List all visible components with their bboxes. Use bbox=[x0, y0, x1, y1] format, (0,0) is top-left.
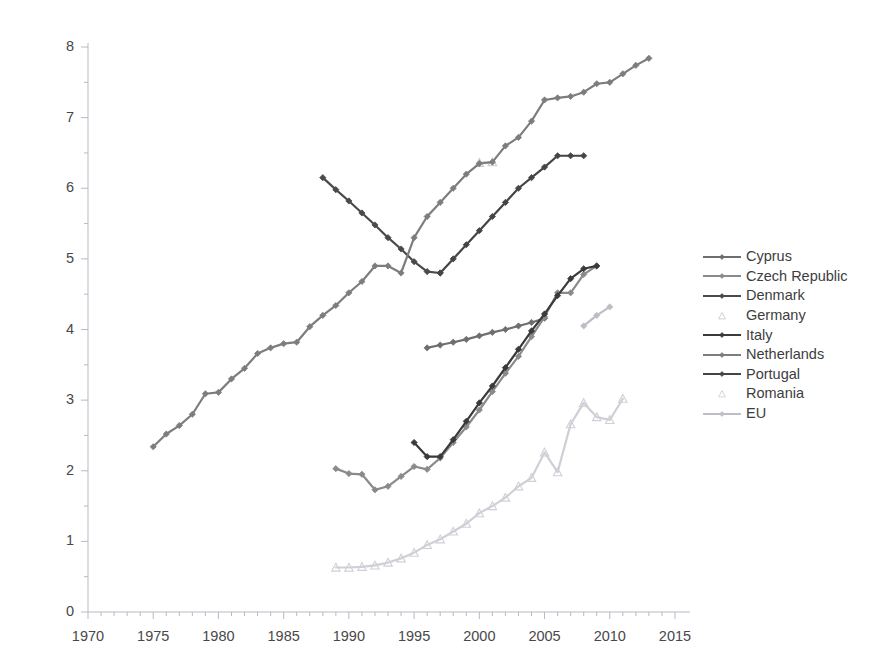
legend-item-label: Czech Republic bbox=[746, 269, 848, 284]
data-point-marker bbox=[515, 323, 521, 329]
x-tick-label-2005: 2005 bbox=[515, 628, 575, 644]
legend-swatch-icon bbox=[703, 367, 741, 381]
legend-item-italy[interactable]: Italy bbox=[703, 325, 883, 345]
data-point-marker bbox=[489, 329, 495, 335]
y-tick-label-6: 6 bbox=[40, 179, 74, 195]
data-series-layer bbox=[150, 55, 652, 571]
data-point-marker bbox=[720, 274, 725, 279]
series-line bbox=[440, 156, 583, 273]
x-tick-label-1980: 1980 bbox=[188, 628, 248, 644]
legend-swatch-icon bbox=[703, 387, 741, 401]
data-point-marker bbox=[281, 341, 287, 347]
y-tick-label-2: 2 bbox=[40, 462, 74, 478]
legend-swatch-icon bbox=[703, 348, 741, 362]
series-denmark bbox=[320, 175, 444, 277]
x-tick-label-2015: 2015 bbox=[645, 628, 705, 644]
legend-diamond-icon bbox=[718, 272, 726, 280]
y-tick-label-4: 4 bbox=[40, 321, 74, 337]
legend-item-germany[interactable]: Germany bbox=[703, 306, 883, 326]
data-point-marker bbox=[568, 93, 574, 99]
data-point-marker bbox=[555, 95, 561, 101]
y-tick-label-0: 0 bbox=[40, 603, 74, 619]
legend-swatch-icon bbox=[703, 328, 741, 342]
data-point-marker bbox=[333, 466, 339, 472]
data-point-marker bbox=[437, 342, 443, 348]
legend-swatch-icon bbox=[703, 309, 741, 323]
series-czech-republic bbox=[333, 263, 600, 493]
y-axis-ticks bbox=[81, 47, 88, 612]
legend-swatch-icon bbox=[703, 289, 741, 303]
legend-item-label: EU bbox=[746, 406, 766, 421]
legend-item-cyprus[interactable]: Cyprus bbox=[703, 247, 883, 267]
legend-diamond-icon bbox=[718, 351, 726, 359]
data-point-marker bbox=[424, 345, 430, 351]
legend-item-netherlands[interactable]: Netherlands bbox=[703, 345, 883, 365]
data-point-marker bbox=[568, 153, 574, 159]
data-point-marker bbox=[720, 333, 725, 338]
series-portugal bbox=[437, 153, 587, 276]
data-point-marker bbox=[528, 319, 534, 325]
legend-diamond-icon bbox=[718, 292, 726, 300]
legend-item-label: Germany bbox=[746, 308, 806, 323]
y-tick-label-3: 3 bbox=[40, 391, 74, 407]
legend-item-romania[interactable]: Romania bbox=[703, 384, 883, 404]
x-tick-label-1995: 1995 bbox=[384, 628, 444, 644]
y-tick-label-7: 7 bbox=[40, 109, 74, 125]
data-point-marker bbox=[268, 345, 274, 351]
x-tick-label-1975: 1975 bbox=[123, 628, 183, 644]
legend-item-czech-republic[interactable]: Czech Republic bbox=[703, 267, 883, 287]
x-axis-ticks bbox=[88, 612, 675, 619]
legend-item-label: Netherlands bbox=[746, 347, 824, 362]
series-line bbox=[336, 266, 597, 490]
legend-triangle-icon bbox=[718, 390, 726, 398]
data-point-marker bbox=[720, 294, 725, 299]
legend-item-denmark[interactable]: Denmark bbox=[703, 286, 883, 306]
series-romania bbox=[332, 395, 627, 572]
legend-triangle-icon bbox=[718, 312, 726, 320]
x-tick-label-1985: 1985 bbox=[254, 628, 314, 644]
data-point-marker bbox=[720, 372, 725, 377]
legend-item-label: Cyprus bbox=[746, 249, 792, 264]
y-tick-label-8: 8 bbox=[40, 38, 74, 54]
chart-legend: CyprusCzech RepublicDenmarkGermanyItalyN… bbox=[703, 247, 883, 423]
legend-item-portugal[interactable]: Portugal bbox=[703, 365, 883, 385]
x-tick-label-2010: 2010 bbox=[580, 628, 640, 644]
x-tick-label-1990: 1990 bbox=[319, 628, 379, 644]
legend-item-label: Romania bbox=[746, 386, 804, 401]
data-point-marker bbox=[502, 326, 508, 332]
series-eu bbox=[581, 304, 613, 329]
legend-item-eu[interactable]: EU bbox=[703, 404, 883, 424]
data-point-marker bbox=[719, 391, 726, 397]
data-point-marker bbox=[346, 470, 352, 476]
legend-item-label: Italy bbox=[746, 328, 773, 343]
data-point-marker bbox=[450, 339, 456, 345]
data-point-marker bbox=[581, 153, 587, 159]
data-point-marker bbox=[719, 312, 726, 318]
y-tick-label-5: 5 bbox=[40, 250, 74, 266]
legend-swatch-icon bbox=[703, 269, 741, 283]
y-tick-label-1: 1 bbox=[40, 532, 74, 548]
legend-diamond-icon bbox=[718, 410, 726, 418]
data-point-marker bbox=[720, 352, 725, 357]
legend-swatch-icon bbox=[703, 250, 741, 264]
chart-container: 876543210 197019751980198519901995200020… bbox=[0, 0, 893, 672]
data-point-marker bbox=[463, 336, 469, 342]
data-point-marker bbox=[720, 254, 725, 259]
data-point-marker bbox=[720, 411, 725, 416]
x-tick-label-2000: 2000 bbox=[449, 628, 509, 644]
x-tick-label-1970: 1970 bbox=[58, 628, 118, 644]
legend-diamond-icon bbox=[718, 370, 726, 378]
legend-diamond-icon bbox=[718, 253, 726, 261]
series-line bbox=[336, 399, 623, 568]
axis-lines bbox=[88, 43, 690, 612]
legend-swatch-icon bbox=[703, 407, 741, 421]
legend-item-label: Portugal bbox=[746, 367, 800, 382]
data-point-marker bbox=[476, 333, 482, 339]
legend-diamond-icon bbox=[718, 331, 726, 339]
legend-item-label: Denmark bbox=[746, 288, 805, 303]
